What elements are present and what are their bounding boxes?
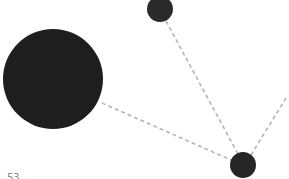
graph-canvas	[0, 0, 289, 179]
node-top[interactable]	[147, 0, 173, 22]
edge-bottom-right-to-offscreen	[251, 98, 286, 155]
node-label-bottom-left: 53	[7, 173, 20, 179]
node-bottom-right[interactable]	[230, 152, 256, 178]
network-diagram: 53	[0, 0, 289, 179]
edge-large-to-bottom-right	[102, 103, 231, 160]
node-large[interactable]	[3, 29, 103, 129]
edge-top-to-bottom-right	[166, 21, 238, 154]
